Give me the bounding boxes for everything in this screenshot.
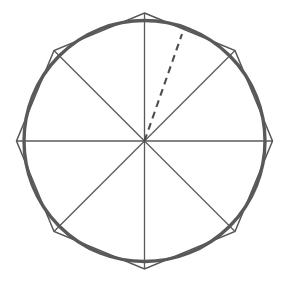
dashed-radius-line [145, 34, 183, 141]
figure-container [0, 0, 287, 285]
geometry-diagram [0, 0, 287, 285]
radius-line-225 [54, 141, 145, 232]
radius-line-45 [145, 50, 236, 141]
radius-line-135 [54, 50, 145, 141]
radius-line-315 [145, 141, 236, 232]
